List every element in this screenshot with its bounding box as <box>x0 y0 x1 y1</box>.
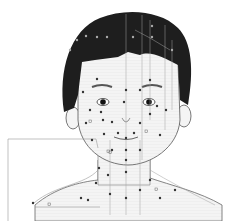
acupuncture-head-diagram <box>0 0 234 221</box>
face <box>78 45 180 165</box>
